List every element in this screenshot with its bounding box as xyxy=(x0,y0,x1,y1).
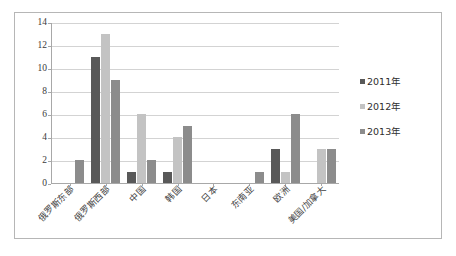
bar-group xyxy=(124,23,160,183)
y-axis-tick-label: 0 xyxy=(42,179,47,189)
legend-label: 2011年 xyxy=(367,77,401,87)
legend-color-swatch xyxy=(360,129,365,134)
bar-slot xyxy=(327,23,336,183)
bar-group xyxy=(88,23,124,183)
bar[interactable] xyxy=(281,172,290,184)
bar-slot xyxy=(111,23,120,183)
chart-frame: 02468101214 俄罗斯东部俄罗斯西部中国韩国日本东南亚欧洲美国/加拿大 … xyxy=(14,12,442,239)
bar-slot xyxy=(317,23,326,183)
bar-slot xyxy=(65,23,74,183)
bar-group xyxy=(303,23,339,183)
bar-slot xyxy=(137,23,146,183)
bar-group xyxy=(267,23,303,183)
bar[interactable] xyxy=(75,160,84,183)
bar[interactable] xyxy=(137,114,146,183)
bar-slot xyxy=(245,23,254,183)
bar-slot xyxy=(183,23,192,183)
bar[interactable] xyxy=(91,57,100,184)
y-axis-tick-mark xyxy=(48,23,51,24)
x-axis-tick-label: 中国 xyxy=(128,185,147,204)
bar[interactable] xyxy=(317,149,326,184)
bar-slot xyxy=(291,23,300,183)
x-axis-tick-label: 欧洲 xyxy=(272,185,291,204)
bar[interactable] xyxy=(127,172,136,184)
bar-group xyxy=(196,23,232,183)
bar-group xyxy=(231,23,267,183)
bar-slot xyxy=(235,23,244,183)
bar-slot xyxy=(55,23,64,183)
bar[interactable] xyxy=(111,80,120,184)
bar-slot xyxy=(147,23,156,183)
bar-slot xyxy=(199,23,208,183)
bar-slot xyxy=(173,23,182,183)
bar[interactable] xyxy=(271,149,280,184)
bar-slot xyxy=(91,23,100,183)
legend-item[interactable]: 2013年 xyxy=(360,126,430,137)
bar-slot xyxy=(281,23,290,183)
y-axis-tick-mark xyxy=(48,138,51,139)
legend-color-swatch xyxy=(360,104,365,109)
y-axis-tick-label: 8 xyxy=(42,87,47,97)
bar-slot xyxy=(307,23,316,183)
x-axis-tick-label: 东南亚 xyxy=(230,185,256,211)
bar[interactable] xyxy=(147,160,156,183)
bar-slot xyxy=(219,23,228,183)
bar[interactable] xyxy=(173,137,182,183)
bar-slot xyxy=(255,23,264,183)
y-axis-tick-mark xyxy=(48,115,51,116)
bar-series-container xyxy=(52,23,339,183)
y-axis-tick-label: 2 xyxy=(42,156,47,166)
bar-group xyxy=(160,23,196,183)
bar[interactable] xyxy=(163,172,172,184)
y-axis-tick-mark xyxy=(48,46,51,47)
bar[interactable] xyxy=(183,126,192,184)
bar-slot xyxy=(163,23,172,183)
y-axis-tick-label: 6 xyxy=(42,110,47,120)
bar[interactable] xyxy=(101,34,110,184)
legend-item[interactable]: 2012年 xyxy=(360,101,430,112)
bar-slot xyxy=(101,23,110,183)
legend-label: 2013年 xyxy=(367,127,401,137)
bar-slot xyxy=(209,23,218,183)
legend-item[interactable]: 2011年 xyxy=(360,76,430,87)
bar[interactable] xyxy=(291,114,300,183)
bar-slot xyxy=(75,23,84,183)
y-axis-tick-mark xyxy=(48,161,51,162)
y-axis-tick-label: 14 xyxy=(38,18,48,28)
y-axis-tick-label: 12 xyxy=(38,41,48,51)
x-axis-line xyxy=(51,183,339,184)
chart-legend: 2011年2012年2013年 xyxy=(360,76,430,151)
bar[interactable] xyxy=(255,172,264,184)
plot-inner: 02468101214 xyxy=(51,23,339,184)
y-axis-tick-label: 10 xyxy=(38,64,48,74)
plot-area: 02468101214 xyxy=(51,23,339,184)
y-axis-tick-mark xyxy=(48,69,51,70)
bar[interactable] xyxy=(327,149,336,184)
bar-slot xyxy=(127,23,136,183)
x-axis-tick-label: 美国/加拿大 xyxy=(287,185,328,226)
legend-color-swatch xyxy=(360,79,365,84)
x-axis-tick-label: 俄罗斯西部 xyxy=(73,185,111,223)
bar-slot xyxy=(271,23,280,183)
bar-group xyxy=(52,23,88,183)
legend-label: 2012年 xyxy=(367,102,401,112)
y-axis-tick-label: 4 xyxy=(42,133,47,143)
x-axis-tick-label: 韩国 xyxy=(164,185,183,204)
x-axis-tick-label: 日本 xyxy=(200,185,219,204)
x-axis-tick-label: 俄罗斯东部 xyxy=(37,185,75,223)
x-axis-tick-labels: 俄罗斯东部俄罗斯西部中国韩国日本东南亚欧洲美国/加拿大 xyxy=(51,185,339,240)
y-axis-tick-mark xyxy=(48,92,51,93)
